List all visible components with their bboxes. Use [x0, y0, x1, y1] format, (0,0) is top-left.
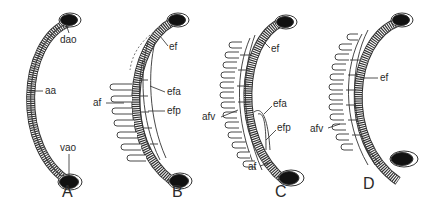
label-efa-c: efa: [273, 98, 287, 109]
label-afv-c: afv: [202, 111, 215, 122]
dorsal-aorta-a: [59, 13, 81, 27]
panel-a: dao aa vao A: [29, 13, 82, 200]
label-ef-d: ef: [380, 72, 389, 83]
panel-label-a: A: [62, 183, 73, 200]
filaments-d: [329, 34, 358, 150]
panel-label-c: C: [275, 183, 287, 200]
label-afv-d: afv: [310, 123, 323, 134]
panel-label-d: D: [363, 175, 375, 192]
label-vao: vao: [60, 142, 77, 153]
label-af-c: af: [248, 161, 257, 172]
label-efp-c: efp: [277, 122, 291, 133]
panel-label-b: B: [172, 183, 183, 200]
gill-arch-diagram: dao aa vao A: [0, 0, 430, 201]
label-ef-c: ef: [271, 43, 280, 54]
label-af-b: af: [93, 97, 102, 108]
label-ef-b: ef: [169, 41, 178, 52]
label-dao: dao: [60, 34, 77, 45]
panel-c: ef afv efa efp af C: [202, 15, 304, 200]
label-efa-b: efa: [167, 86, 181, 97]
panel-b: ef efa af efp B: [93, 13, 192, 200]
afferent-artery-arch-a: [31, 22, 70, 182]
label-aa: aa: [45, 85, 57, 96]
label-efp-b: efp: [167, 105, 181, 116]
panel-d: ef afv D: [310, 13, 418, 192]
